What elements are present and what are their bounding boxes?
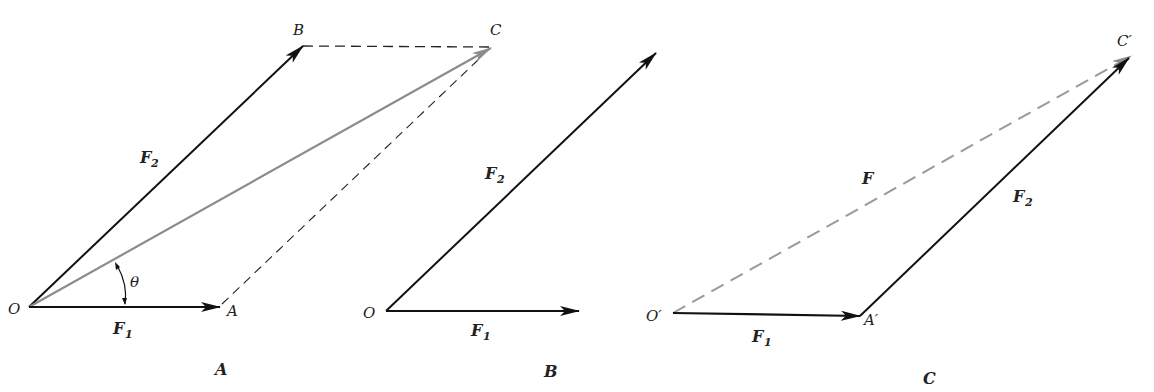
dashed-line-a-to-c xyxy=(222,60,478,304)
point-label-c-prime: C′ xyxy=(1117,32,1132,50)
dashed-line-b-to-c xyxy=(303,46,490,47)
vector-f2-arrow xyxy=(860,58,1129,316)
angle-label-theta: θ xyxy=(130,273,139,291)
svg-text:2: 2 xyxy=(150,157,159,170)
svg-text:2: 2 xyxy=(496,173,505,186)
vector-label-f1: F 1 xyxy=(112,319,133,341)
svg-text:F: F xyxy=(484,164,498,183)
vector-label-f1: F 1 xyxy=(470,321,491,343)
point-label-c: C xyxy=(490,21,502,39)
point-label-a-prime: A′ xyxy=(862,311,879,329)
vector-f1-arrow xyxy=(673,313,860,316)
svg-text:F: F xyxy=(470,321,484,340)
vector-label-f1: F 1 xyxy=(751,327,772,349)
svg-text:1: 1 xyxy=(125,328,133,341)
svg-text:1: 1 xyxy=(764,336,772,349)
vector-f2-arrow xyxy=(386,53,656,311)
point-label-b: B xyxy=(292,21,304,39)
angle-arrowhead-bottom xyxy=(122,298,127,305)
panel-caption-c: C xyxy=(923,369,936,388)
vector-label-f: F xyxy=(861,169,875,188)
point-label-a: A xyxy=(225,302,238,320)
point-label-o: O xyxy=(363,304,375,322)
panel-a: O A B C θ F 2 F 1 A xyxy=(8,21,502,379)
point-label-o-prime: O′ xyxy=(646,307,662,325)
point-label-o: O xyxy=(8,300,20,318)
svg-text:F: F xyxy=(751,327,765,346)
svg-text:F: F xyxy=(1012,187,1026,206)
panel-b: O F 2 F 1 B xyxy=(363,53,656,381)
svg-text:F: F xyxy=(112,319,126,338)
panel-caption-b: B xyxy=(543,362,558,381)
panel-caption-a: A xyxy=(213,360,227,379)
vector-label-f2: F 2 xyxy=(139,148,159,170)
svg-text:2: 2 xyxy=(1024,196,1033,209)
svg-text:1: 1 xyxy=(483,330,491,343)
panel-c: O′ A′ C′ F F 2 F 1 C xyxy=(646,32,1132,388)
vector-label-f2: F 2 xyxy=(1012,187,1033,209)
vector-label-f2: F 2 xyxy=(484,164,505,186)
vector-addition-diagram: O A B C θ F 2 F 1 A O F 2 F 1 B O′ xyxy=(0,0,1154,392)
